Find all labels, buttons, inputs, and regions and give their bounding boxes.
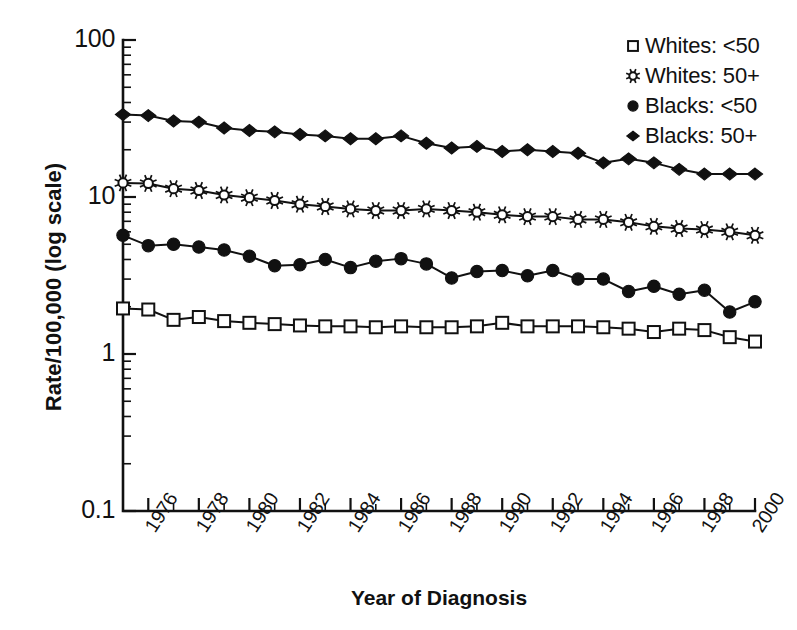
legend-marker-filled-circle-icon [622,95,644,117]
legend-label: Blacks: 50+ [645,123,757,149]
y-tick-label: 100 [20,24,115,53]
legend-marker-open-star-icon [622,65,644,87]
legend-label: Whites: 50+ [645,63,760,89]
chart-container: 1001010.1 197619781980198219841986198819… [0,0,797,630]
legend-label: Whites: <50 [645,33,760,59]
y-axis-title: Rate/100,000 (log scale) [41,137,67,437]
y-tick-label: 10 [20,181,115,210]
series-2 [115,175,764,244]
y-tick-label: 0.1 [20,495,115,524]
legend-marker-open-square-icon [622,35,644,57]
series-3 [117,229,761,318]
legend-item[interactable]: Blacks: 50+ [622,123,760,149]
series-1 [117,302,761,347]
legend-item[interactable]: Blacks: <50 [622,93,760,119]
legend-item[interactable]: Whites: <50 [622,33,760,59]
legend: Whites: <50Whites: 50+Blacks: <50Blacks:… [622,33,760,149]
legend-marker-filled-diamond-icon [622,125,644,147]
y-tick-label: 1 [20,338,115,367]
x-axis-title: Year of Diagnosis [123,586,755,610]
legend-item[interactable]: Whites: 50+ [622,63,760,89]
legend-label: Blacks: <50 [645,93,757,119]
